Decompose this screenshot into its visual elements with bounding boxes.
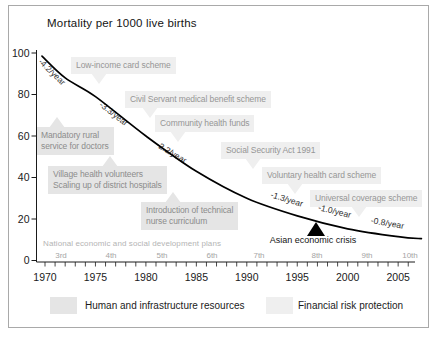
- callout-tail-down-icon: [287, 183, 303, 194]
- callout-tail-up-icon: [165, 192, 181, 203]
- callout-tail-down-icon: [351, 206, 367, 217]
- annotation-community-health-funds: Community health funds: [155, 115, 254, 132]
- callout-tail-up-icon: [49, 117, 65, 128]
- annotation-social-security-act-1991: Social Security Act 1991: [221, 142, 320, 159]
- callout-tail-up-icon: [102, 156, 118, 167]
- chart-title: Mortality per 1000 live births: [47, 17, 197, 29]
- legend: Human and infrastructure resources Finan…: [0, 295, 441, 319]
- annotation-civil-servant-medical-benefit-scheme: Civil Servant medical benefit scheme: [125, 91, 271, 108]
- callout-tail-down-icon: [245, 158, 261, 169]
- annotation-village-health-volunteers: Village health volunteers Scaling up of …: [48, 166, 167, 194]
- annotation-universal-coverage-scheme: Universal coverage scheme: [310, 190, 422, 207]
- crisis-up-triangle-icon: [307, 222, 325, 236]
- callout-tail-down-icon: [170, 131, 186, 142]
- legend-label-human: Human and infrastructure resources: [85, 300, 245, 311]
- annotation-introduction-of-technical: Introduction of technical nurse curricul…: [141, 202, 238, 230]
- callout-tail-down-icon: [91, 73, 107, 84]
- legend-swatch-financial: [266, 297, 293, 314]
- crisis-label: Asian economic crisis: [270, 235, 357, 245]
- legend-label-financial: Financial risk protection: [298, 300, 403, 311]
- annotation-low-income-card-scheme: Low-income card scheme: [71, 57, 176, 74]
- legend-swatch-human: [50, 297, 77, 314]
- development-plans-title: National economic and social development…: [43, 239, 221, 248]
- annotation-voluntary-health-card-scheme: Voluntary health card scheme: [262, 167, 381, 184]
- annotation-mandatory-rural: Mandatory rural service for doctors: [36, 127, 114, 155]
- figure: Mortality per 1000 live births Low-incom…: [0, 0, 441, 338]
